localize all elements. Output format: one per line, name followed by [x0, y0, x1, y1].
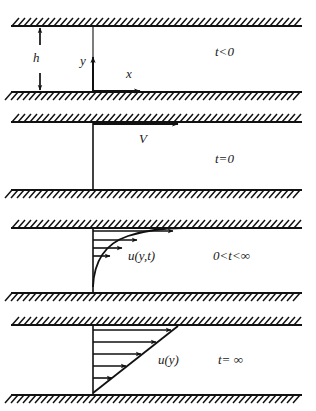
time-label-2: t=0 [215, 151, 234, 166]
time-label-3: 0<t<∞ [213, 248, 250, 263]
gap-height-label: h [33, 50, 40, 65]
time-label-1: t<0 [215, 44, 234, 59]
diagram-background [0, 0, 316, 411]
flow-development-diagram: h y x t<0 [0, 0, 316, 411]
transient-velocity-label: u(y,t) [128, 248, 155, 263]
y-axis-label: y [78, 53, 86, 68]
x-axis-label: x [125, 66, 132, 81]
steady-velocity-label: u(y) [158, 352, 179, 367]
time-label-4: t= ∞ [218, 352, 243, 367]
